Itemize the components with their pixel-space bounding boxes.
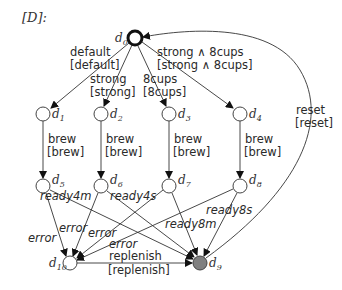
node-d7[interactable]: [162, 179, 176, 193]
state-diagram: [D]: d0 d1 d2 d3 d4 d5 d6 d7 d8 d10 d9 d…: [0, 0, 342, 290]
node-d8[interactable]: [233, 179, 247, 193]
node-label-d5: d5: [52, 173, 65, 189]
node-d3[interactable]: [162, 107, 176, 121]
label-replenish: replenish: [109, 249, 162, 263]
node-label-d3: d3: [178, 107, 191, 123]
node-label-d1: d1: [52, 107, 65, 123]
node-label-d9: d9: [209, 256, 222, 272]
label-default: default: [70, 45, 111, 59]
label-reset: reset: [296, 103, 326, 117]
brew-guard-d4: [brew]: [244, 145, 281, 159]
node-d4[interactable]: [233, 107, 247, 121]
node-label-d4: d4: [249, 107, 262, 123]
node-d0-initial[interactable]: [128, 31, 142, 45]
guard-strong-and-8cups: [strong ∧ 8cups]: [157, 58, 253, 72]
brew-d2: brew: [106, 132, 134, 146]
guard-default: [default]: [70, 58, 119, 72]
label-error-d6: error: [59, 221, 89, 235]
node-d2[interactable]: [94, 107, 108, 121]
node-label-d7: d7: [178, 173, 192, 189]
node-d9-final[interactable]: [193, 256, 207, 270]
brew-d3: brew: [174, 132, 202, 146]
label-ready4s: ready4s: [110, 189, 156, 203]
guard-strong: [strong]: [90, 85, 136, 99]
brew-guard-d1: [brew]: [47, 145, 84, 159]
node-label-d0: d0: [115, 31, 128, 47]
brew-d4: brew: [245, 132, 273, 146]
guard-reset: [reset]: [295, 116, 333, 130]
label-strong-and-8cups: strong ∧ 8cups: [157, 45, 244, 59]
brew-d1: brew: [48, 132, 76, 146]
node-d6[interactable]: [94, 179, 108, 193]
node-label-d8: d8: [249, 173, 262, 189]
node-label-d2: d2: [110, 107, 123, 123]
label-error-d5: error: [28, 231, 58, 245]
label-8cups: 8cups: [143, 72, 177, 86]
label-ready8s: ready8s: [206, 203, 252, 217]
brew-guard-d2: [brew]: [105, 145, 142, 159]
label-ready4m: ready4m: [40, 189, 91, 203]
label-strong: strong: [90, 72, 127, 86]
guard-8cups: [8cups]: [143, 85, 186, 99]
node-label-d6: d6: [110, 173, 123, 189]
label-ready8m: ready8m: [165, 217, 216, 231]
guard-replenish: [replenish]: [108, 263, 170, 277]
brew-guard-d3: [brew]: [173, 145, 210, 159]
node-d1[interactable]: [36, 107, 50, 121]
diagram-title: [D]:: [22, 10, 47, 25]
